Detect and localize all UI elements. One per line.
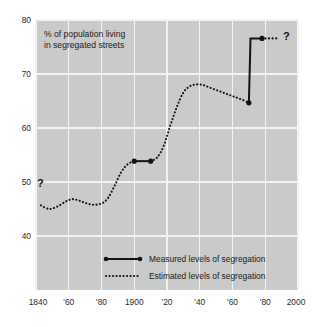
x-tick-label: '20 xyxy=(162,297,173,307)
x-tick-label: 1900 xyxy=(125,297,144,307)
y-tick-label: 60 xyxy=(22,123,32,133)
x-tick-label: '60 xyxy=(227,297,238,307)
measured-endpoint-dot xyxy=(246,100,251,105)
x-tick-label: '40 xyxy=(194,297,205,307)
y-tick-label: 40 xyxy=(22,231,32,241)
y-tick-label: 80 xyxy=(22,15,32,25)
annotation-question-mark-right: ? xyxy=(283,30,290,42)
x-axis-ticks: 1840 '60 '80 1900 '20 '40 '60 '80 2000 xyxy=(29,297,306,307)
y-tick-label: 50 xyxy=(22,177,32,187)
chart-title-line-2: in segregated streets xyxy=(44,40,124,50)
legend-swatch-measured-dot-end xyxy=(138,257,143,262)
chart-title-line-1: % of population living xyxy=(44,29,125,39)
y-axis-ticks: 80 70 60 50 40 xyxy=(22,15,32,241)
x-tick-label: 1840 xyxy=(29,297,48,307)
legend-label-measured: Measured levels of segregation xyxy=(149,254,266,264)
x-tick-label: '80 xyxy=(96,297,107,307)
legend-label-estimated: Estimated levels of segregation xyxy=(149,271,266,281)
chart-canvas: % of population living in segregated str… xyxy=(0,0,315,327)
measured-endpoint-dot xyxy=(132,159,137,164)
annotation-question-mark-left: ? xyxy=(37,177,44,189)
segregation-chart: % of population living in segregated str… xyxy=(0,0,315,327)
legend-swatch-measured-dot-start xyxy=(104,257,109,262)
x-tick-label: 2000 xyxy=(287,297,306,307)
x-tick-label: '80 xyxy=(260,297,271,307)
y-tick-label: 70 xyxy=(22,69,32,79)
x-tick-label: '60 xyxy=(63,297,74,307)
